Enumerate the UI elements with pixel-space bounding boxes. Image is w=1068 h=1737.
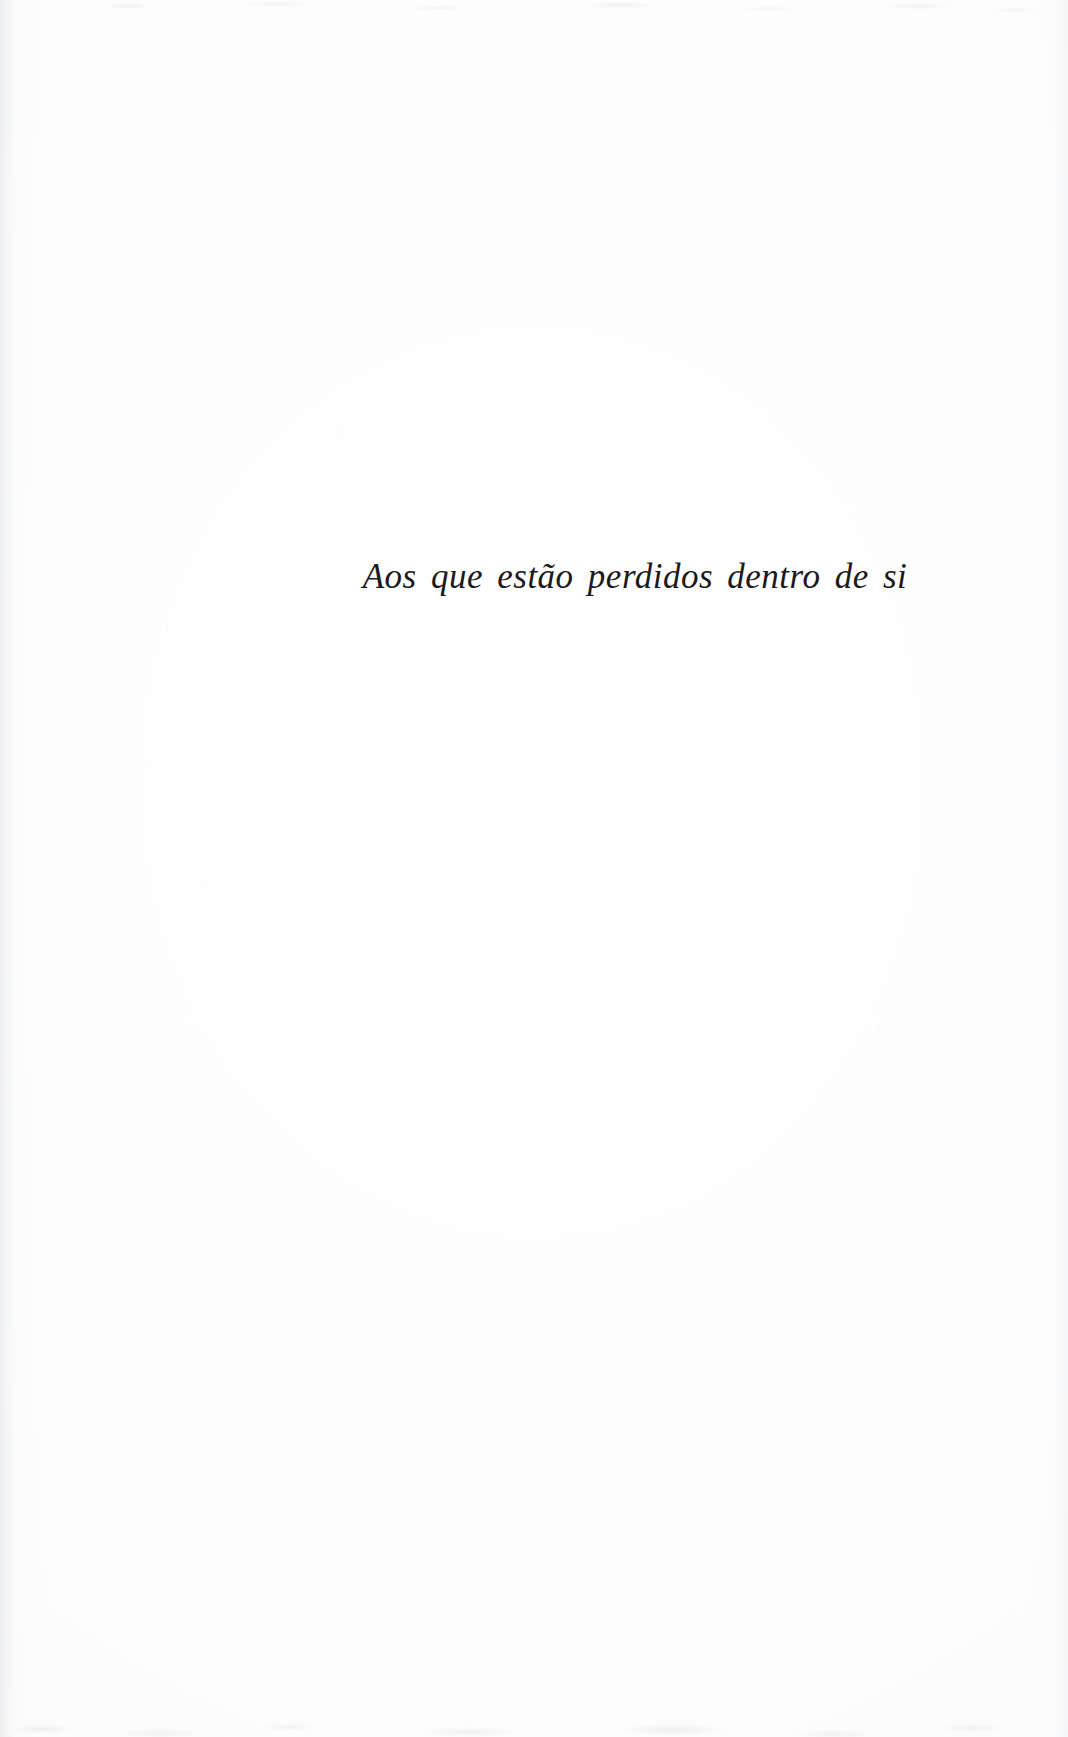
dedication-block: Aos que estão perdidos dentro de si [0, 556, 1068, 597]
scanned-book-page: Aos que estão perdidos dentro de si [0, 0, 1068, 1737]
paper-tone-overlay [0, 0, 1068, 1737]
top-edge-scan-artifact [0, 0, 1068, 26]
dedication-text: Aos que estão perdidos dentro de si [363, 556, 908, 597]
bottom-edge-scan-artifact [0, 1685, 1068, 1737]
scan-speckle-overlay [0, 0, 1068, 1737]
